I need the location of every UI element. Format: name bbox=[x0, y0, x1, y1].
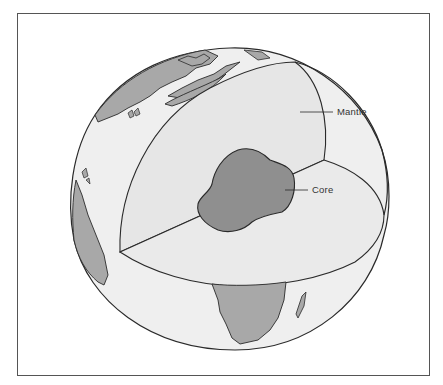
core-label: Core bbox=[312, 184, 333, 195]
earth-cutaway-diagram bbox=[0, 0, 443, 385]
mantle-label: Mantle bbox=[337, 106, 367, 117]
